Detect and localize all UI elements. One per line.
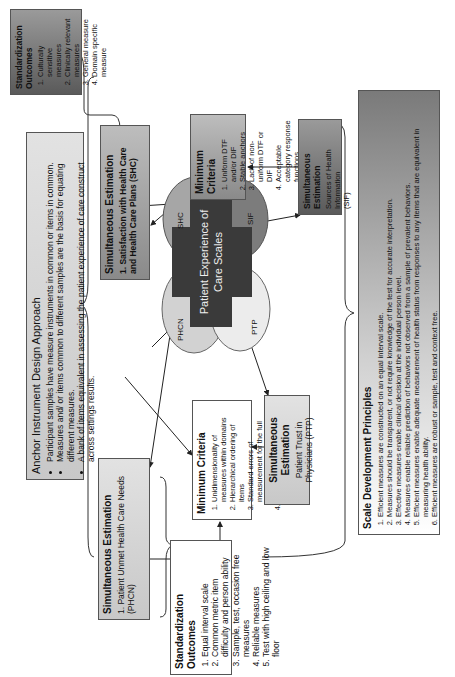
principle-item: Efficient measures are constructed on an…	[376, 96, 385, 517]
anchor-title: Anchor Instrument Design Approach	[30, 138, 43, 474]
se-phcn-title: Simultaneous Estimation	[102, 464, 114, 614]
anchor-bullet: Measures and/ or items common to differe…	[55, 138, 75, 462]
se-ptp-line: Physicians (PTP)	[304, 401, 314, 499]
anchor-bullet: A bank of items equivalent in assessing …	[76, 138, 96, 462]
min-left-item: Unidimensionality of measures within dom…	[210, 406, 228, 502]
se-sif-box: Simultaneous Estimation Sources of Healt…	[298, 119, 342, 215]
core-label-line: Patient Experience of	[198, 207, 212, 317]
min-right-item: Lack of non-uniform DTF or DIF	[247, 120, 274, 182]
std-right-item: Clinically relevant measures	[63, 15, 81, 77]
lobe-label-ptp: PTP	[250, 319, 259, 335]
std-left-title: Standardization Outcomes	[174, 546, 198, 669]
lobe-label-shc: SHC	[176, 212, 185, 229]
min-criteria-right-box: Minimum Criteria Uniform DTF and/or DIF …	[190, 114, 246, 200]
core-label-line: Care Scales	[212, 207, 226, 317]
se-sif-title: Simultaneous Estimation	[302, 125, 322, 209]
core-label: Patient Experience of Care Scales	[198, 207, 226, 317]
scale-principles-box: Scale Development Principles Efficient m…	[358, 90, 440, 535]
lobe-label-sif: SIF	[246, 213, 255, 225]
min-right-item: Uniform DTF and/or DIF	[220, 120, 238, 182]
anchor-bullet: Participant samples have measure instrum…	[45, 138, 55, 462]
se-shc-title: Simultaneous Estimation	[104, 131, 116, 274]
std-outcomes-left-box: Standardization Outcomes Equal interval …	[170, 540, 232, 675]
se-shc-box: Simultaneous Estimation 1. Satisfaction …	[100, 125, 150, 280]
principle-item: Efficient measures enable adequate measu…	[412, 96, 430, 517]
principle-item: Efficient measures are robust or sample,…	[430, 96, 439, 517]
min-criteria-left-box: Minimum Criteria Unidimensionality of me…	[192, 400, 252, 520]
se-phcn-item: 1. Patient Unmet Health Care Needs (PHCN…	[116, 464, 136, 614]
se-ptp-title: Simultaneous Estimation	[268, 401, 292, 499]
se-phcn-box: Simultaneous Estimation 1. Patient Unmet…	[98, 458, 150, 620]
min-right-item: Acceptable category response functions	[274, 120, 301, 182]
std-right-item: General measure	[81, 15, 90, 77]
se-ptp-line: Patient Trust in	[294, 401, 304, 499]
principles-title: Scale Development Principles	[362, 96, 374, 529]
std-left-item: Sample, test, occasion free measures	[231, 546, 251, 657]
se-sif-line: (SIF)	[342, 125, 351, 209]
std-right-title: Standardization Outcomes	[14, 15, 34, 89]
se-shc-item: 1. Satisfaction with Health Care and Hea…	[118, 131, 138, 274]
min-left-title: Minimum Criteria	[196, 406, 208, 514]
principle-item: Effective measures enable clinical decis…	[394, 96, 403, 517]
min-left-item: Hierarchical ordering of items	[228, 406, 246, 502]
principle-item: Measures should be transparent, or not r…	[385, 96, 394, 517]
std-left-item: Equal interval scale	[200, 546, 210, 657]
se-ptp-box: Simultaneous Estimation Patient Trust in…	[264, 395, 310, 505]
anchor-design-box: Anchor Instrument Design Approach Partic…	[26, 132, 84, 480]
std-left-item: Reliable measures	[251, 546, 261, 657]
std-right-item: Culturally sensitive measures	[36, 15, 63, 77]
std-right-item: Domain specific measure	[90, 15, 108, 77]
se-sif-line: Sources of Health Information	[324, 125, 342, 209]
diagram-landscape: Anchor Instrument Design Approach Partic…	[0, 0, 455, 677]
lobe-label-phcn: PHCN	[176, 318, 185, 341]
min-right-title: Minimum Criteria	[194, 120, 218, 194]
min-right-item: Stable anchors	[238, 120, 247, 182]
std-left-item: Common metric item difficulty and person…	[210, 546, 230, 657]
std-outcomes-right-box: Standardization Outcomes Culturally sens…	[10, 9, 82, 95]
principle-item: Measures enable reliable prediction of b…	[403, 96, 412, 517]
std-left-item: Test with high ceiling and low floor	[261, 546, 281, 657]
